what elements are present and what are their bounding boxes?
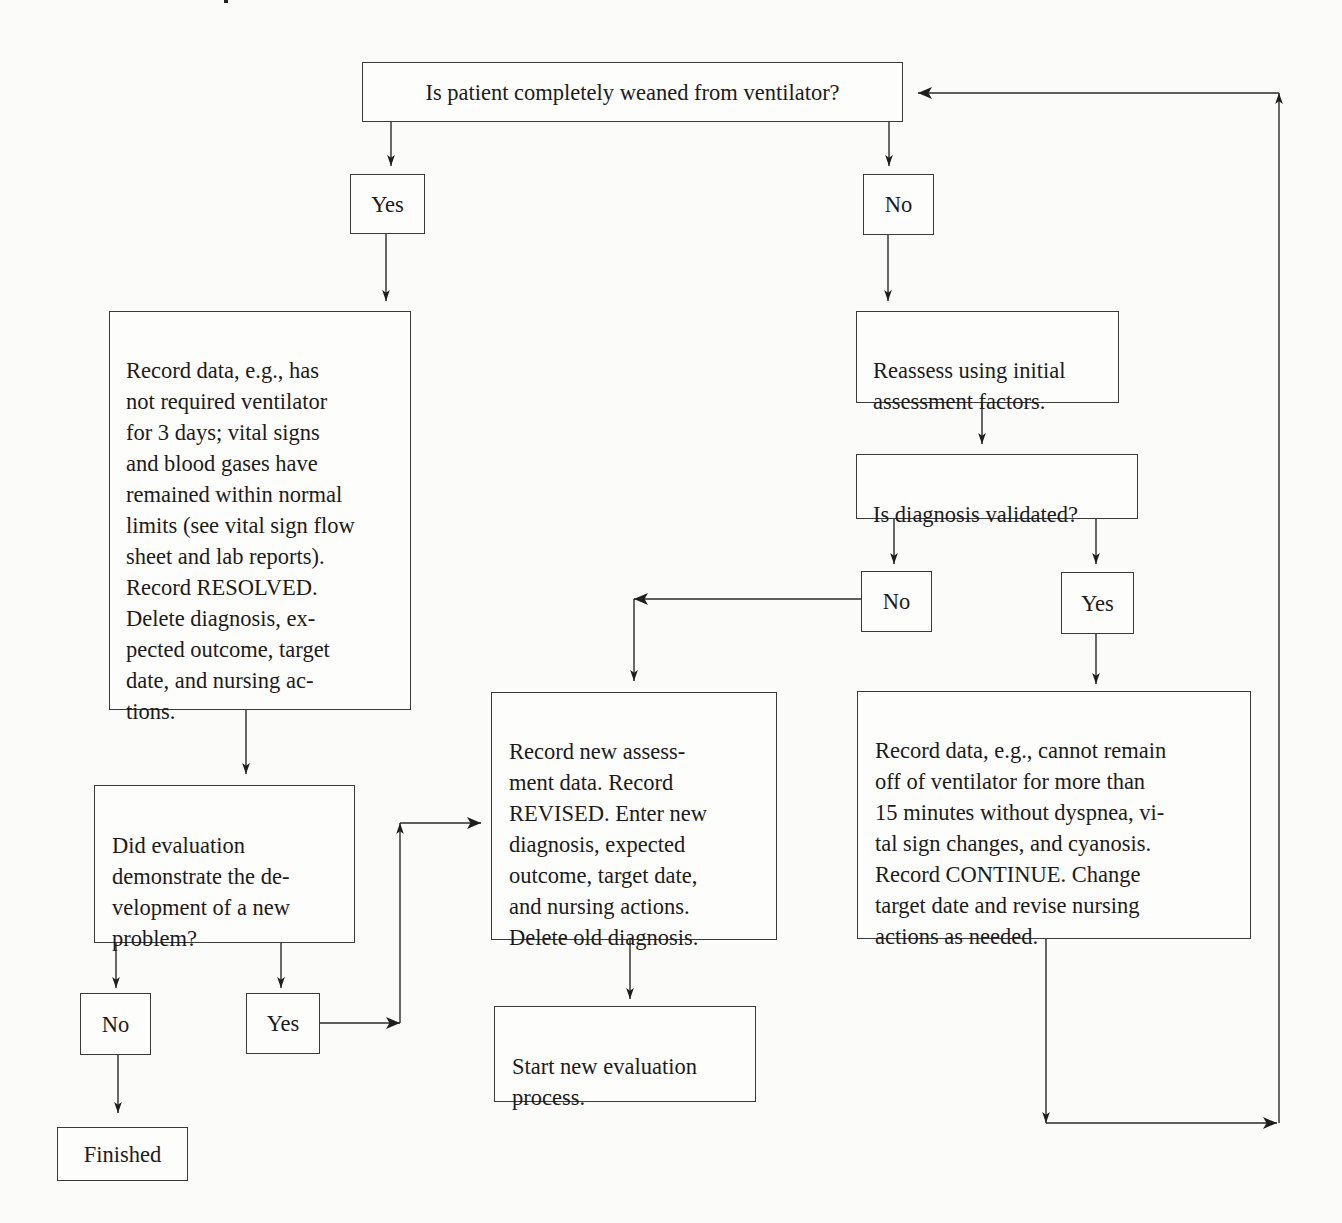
- node-text: Did evaluation demonstrate the de- velop…: [112, 830, 340, 954]
- node-weaned-question: Is patient completely weaned from ventil…: [362, 62, 903, 122]
- node-text: No: [885, 189, 913, 220]
- node-start-new-evaluation: Start new evaluation process.: [494, 1006, 756, 1102]
- node-text: Yes: [1081, 588, 1114, 619]
- node-new-problem-yes: Yes: [246, 993, 320, 1054]
- node-text: Record new assess- ment data. Record REV…: [509, 736, 762, 953]
- node-weaned-yes: Yes: [350, 174, 425, 234]
- node-record-revised: Record new assess- ment data. Record REV…: [491, 692, 777, 940]
- node-text: Record data, e.g., has not required vent…: [126, 355, 396, 727]
- node-text: Reassess using initial assessment factor…: [873, 355, 1104, 417]
- node-text: Is patient completely weaned from ventil…: [425, 77, 839, 108]
- node-validated-yes: Yes: [1061, 572, 1134, 634]
- node-text: Is diagnosis validated?: [873, 499, 1123, 530]
- node-weaned-no: No: [863, 174, 934, 235]
- node-text: Record data, e.g., cannot remain off of …: [875, 735, 1236, 952]
- node-text: Yes: [371, 189, 404, 220]
- node-text: No: [102, 1009, 130, 1040]
- node-new-problem-question: Did evaluation demonstrate the de- velop…: [94, 785, 355, 943]
- node-text: Yes: [267, 1008, 300, 1039]
- node-text: No: [883, 586, 911, 617]
- node-record-continue: Record data, e.g., cannot remain off of …: [857, 691, 1251, 939]
- node-record-resolved: Record data, e.g., has not required vent…: [109, 311, 411, 710]
- node-reassess: Reassess using initial assessment factor…: [856, 311, 1119, 403]
- node-text: Start new evaluation process.: [512, 1051, 741, 1113]
- node-finished: Finished: [57, 1127, 188, 1181]
- node-diagnosis-validated-question: Is diagnosis validated?: [856, 454, 1138, 519]
- node-validated-no: No: [861, 571, 932, 632]
- node-text: Finished: [84, 1139, 162, 1170]
- node-new-problem-no: No: [80, 993, 151, 1055]
